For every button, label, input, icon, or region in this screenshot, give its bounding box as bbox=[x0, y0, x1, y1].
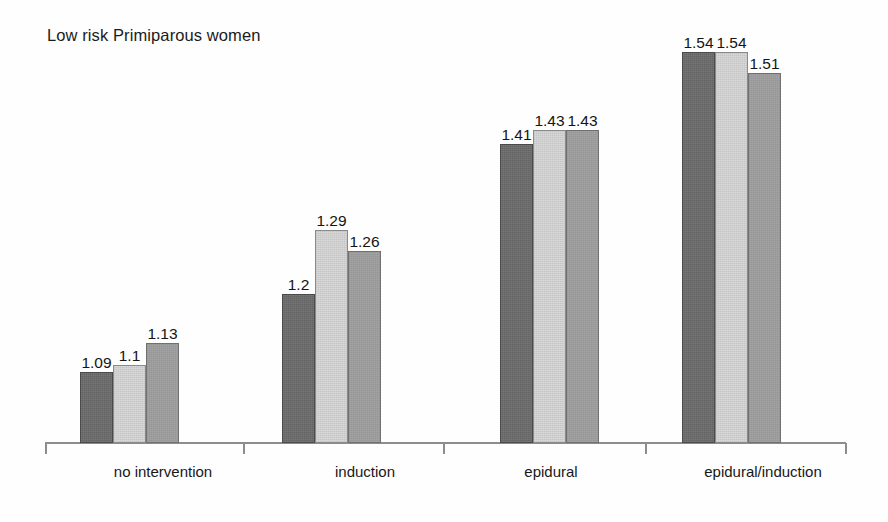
bar[interactable]: 1.43 bbox=[533, 130, 566, 443]
bar-value-label: 1.26 bbox=[349, 234, 379, 250]
bar-value-label: 1.43 bbox=[567, 113, 597, 129]
bars-row: 1.091.11.13 bbox=[80, 43, 179, 443]
bars-row: 1.21.291.26 bbox=[282, 43, 381, 443]
axis-tick-3 bbox=[645, 443, 647, 454]
bar-value-label: 1.1 bbox=[119, 348, 141, 364]
category-label-3: epidural/induction bbox=[704, 464, 822, 479]
bars-row: 1.411.431.43 bbox=[500, 43, 599, 443]
bar-slot: 1.43 bbox=[533, 43, 566, 443]
category-label-2: epidural bbox=[524, 464, 577, 479]
bar-slot: 1.54 bbox=[682, 43, 715, 443]
bar[interactable]: 1.1 bbox=[113, 365, 146, 443]
bar-value-label: 1.54 bbox=[683, 35, 713, 51]
plot-area: 1.091.11.131.21.291.261.411.431.431.541.… bbox=[0, 0, 888, 522]
bar-slot: 1.1 bbox=[113, 43, 146, 443]
bar[interactable]: 1.26 bbox=[348, 251, 381, 443]
bar-slot: 1.43 bbox=[566, 43, 599, 443]
bar[interactable]: 1.43 bbox=[566, 130, 599, 443]
axis-tick-2 bbox=[443, 443, 445, 454]
bar[interactable]: 1.13 bbox=[146, 343, 179, 443]
bar-slot: 1.41 bbox=[500, 43, 533, 443]
bar-value-label: 1.13 bbox=[147, 326, 177, 342]
bar[interactable]: 1.54 bbox=[715, 52, 748, 443]
bar-slot: 1.51 bbox=[748, 43, 781, 443]
bar[interactable]: 1.2 bbox=[282, 294, 315, 443]
bar[interactable]: 1.41 bbox=[500, 144, 533, 443]
bar-slot: 1.2 bbox=[282, 43, 315, 443]
bar-slot: 1.29 bbox=[315, 43, 348, 443]
category-label-0: no intervention bbox=[114, 464, 212, 479]
axis-tick-4 bbox=[845, 443, 847, 454]
axis-tick-1 bbox=[243, 443, 245, 454]
bar[interactable]: 1.09 bbox=[80, 372, 113, 443]
bar-value-label: 1.29 bbox=[316, 213, 346, 229]
bar-slot: 1.13 bbox=[146, 43, 179, 443]
bar[interactable]: 1.51 bbox=[748, 73, 781, 443]
bar-slot: 1.54 bbox=[715, 43, 748, 443]
bar-value-label: 1.2 bbox=[288, 277, 310, 293]
bar-value-label: 1.54 bbox=[716, 35, 746, 51]
bar-slot: 1.09 bbox=[80, 43, 113, 443]
bar[interactable]: 1.54 bbox=[682, 52, 715, 443]
bar-value-label: 1.41 bbox=[501, 127, 531, 143]
category-label-1: induction bbox=[335, 464, 395, 479]
bar-value-label: 1.51 bbox=[749, 56, 779, 72]
bar-value-label: 1.43 bbox=[534, 113, 564, 129]
bar-value-label: 1.09 bbox=[81, 355, 111, 371]
bar[interactable]: 1.29 bbox=[315, 230, 348, 443]
bars-row: 1.541.541.51 bbox=[682, 43, 781, 443]
axis-tick-0 bbox=[45, 443, 47, 454]
bar-chart: Low risk Primiparous women 1.091.11.131.… bbox=[0, 0, 888, 522]
bar-slot: 1.26 bbox=[348, 43, 381, 443]
